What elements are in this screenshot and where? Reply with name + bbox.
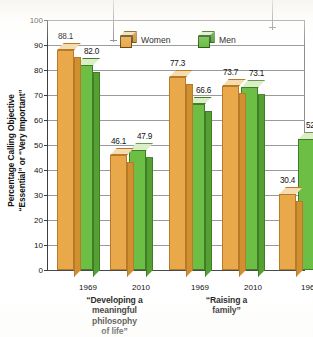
- value-label-women-2010-group2: 73.7: [223, 68, 238, 77]
- value-label-women-2010-group1: 46.1: [111, 137, 126, 146]
- value-label-women-1969-group2: 77.3: [170, 59, 185, 68]
- bar-women-2010-group1: [110, 155, 127, 270]
- value-label-men-1969-group3: 52.3: [306, 121, 313, 130]
- y-tick-mark-70: [44, 95, 48, 96]
- y-tick-label-40: 40: [34, 166, 43, 175]
- y-tick-mark-100: [44, 20, 48, 21]
- bar-women-2010-group2: [222, 86, 239, 270]
- value-label-women-1969-group1: 88.1: [58, 32, 73, 41]
- x-axis-category-2-line-2: family”: [206, 305, 248, 315]
- y-tick-mark-20: [44, 220, 48, 221]
- plot-area: 0102030405060708090100 88.182.046.147.97…: [47, 20, 305, 270]
- y-tick-label-50: 50: [34, 141, 43, 150]
- bar-women-1969-group1: [57, 50, 74, 270]
- y-tick-mark-80: [44, 70, 48, 71]
- value-label-men-1969-group1: 82.0: [84, 47, 99, 56]
- y-tick-label-100: 100: [30, 16, 43, 25]
- gridline-90: [47, 45, 305, 46]
- bar-women-1969-group3: [279, 194, 296, 270]
- x-axis-category-1: “Developing ameaningfulphilosophyof life…: [86, 295, 142, 336]
- y-tick-label-20: 20: [34, 216, 43, 225]
- y-tick-label-90: 90: [34, 41, 43, 50]
- y-tick-label-70: 70: [34, 91, 43, 100]
- y-tick-mark-90: [44, 45, 48, 46]
- value-label-men-2010-group2: 73.1: [249, 69, 264, 78]
- x-axis-year-2010-group1: 2010: [132, 283, 150, 292]
- y-tick-mark-0: [44, 270, 48, 271]
- y-tick-mark-50: [44, 145, 48, 146]
- y-tick-label-10: 10: [34, 241, 43, 250]
- y-tick-label-0: 0: [39, 266, 43, 275]
- y-tick-mark-60: [44, 120, 48, 121]
- y-tick-mark-40: [44, 170, 48, 171]
- x-axis-year-1969-group1: 1969: [79, 283, 97, 292]
- y-axis-title-line-1: Percentage Calling Objective: [6, 66, 17, 236]
- value-label-men-2010-group1: 47.9: [137, 132, 152, 141]
- value-label-men-1969-group2: 66.6: [196, 86, 211, 95]
- x-axis-category-1-line-3: philosophy: [86, 316, 142, 326]
- x-axis-category-1-line-2: meaningful: [86, 305, 142, 315]
- legend-label-women: Women: [141, 35, 170, 45]
- legend-swatch-men-icon: [198, 31, 213, 46]
- legend-swatch-women-icon: [120, 31, 135, 46]
- x-axis-year-1969-group2: 1969: [191, 283, 209, 292]
- y-tick-label-60: 60: [34, 116, 43, 125]
- y-axis-title-line-2: “Essential” or “Very Important”: [16, 66, 27, 236]
- x-axis-category-1-line-4: of life”: [86, 326, 142, 336]
- gridline-0: [47, 270, 305, 271]
- y-tick-label-30: 30: [34, 191, 43, 200]
- y-tick-label-80: 80: [34, 66, 43, 75]
- y-tick-mark-10: [44, 245, 48, 246]
- x-axis-year-2010-group2: 2010: [244, 283, 262, 292]
- value-label-women-1969-group3: 30.4: [280, 176, 295, 185]
- y-tick-mark-30: [44, 195, 48, 196]
- bar-chart-figure: Percentage Calling Objective “Essential”…: [0, 0, 313, 337]
- x-axis-category-2: “Raising afamily”: [206, 295, 248, 316]
- bar-women-1969-group2: [169, 77, 186, 270]
- x-axis-year-1969-group3: 1969: [301, 283, 313, 292]
- gridline-100: [47, 20, 305, 21]
- legend-label-men: Men: [219, 35, 236, 45]
- x-axis-category-2-line-1: “Raising a: [206, 295, 248, 305]
- y-axis-title: Percentage Calling Objective “Essential”…: [6, 66, 27, 236]
- x-axis-category-1-line-1: “Developing a: [86, 295, 142, 305]
